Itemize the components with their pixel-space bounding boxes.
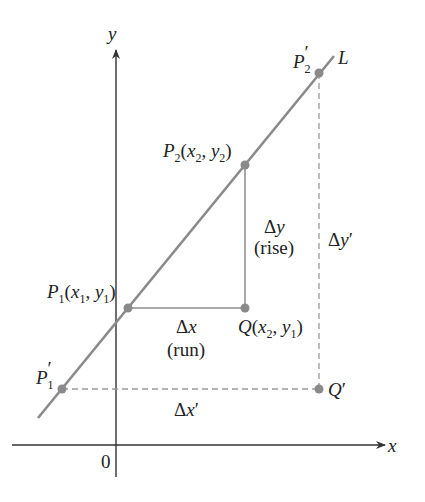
label-p2: P2(x2, y2) [162, 140, 232, 165]
delta-y-label: Δy [264, 216, 285, 237]
point-p2 [241, 161, 250, 170]
label-q: Q(x2, y1) [238, 316, 303, 341]
y-axis-label: y [106, 23, 117, 44]
point-p1 [124, 304, 133, 313]
run-caption: (run) [167, 339, 205, 361]
slope-diagram: x y 0 L P1(x1, y1) P2(x2, y2) Q(x2, y1) … [0, 0, 425, 502]
delta-x-label: Δx [176, 316, 197, 337]
line-l-label: L [337, 47, 349, 68]
label-p1: P1(x1, y1) [46, 281, 116, 306]
label-p2-prime: P2′ [292, 42, 311, 76]
label-p1-prime: P1′ [35, 358, 54, 392]
rise-caption: (rise) [254, 237, 294, 259]
delta-y-prime-label: Δy′ [328, 229, 353, 250]
diagram-canvas: x y 0 L P1(x1, y1) P2(x2, y2) Q(x2, y1) … [0, 0, 425, 502]
origin-label: 0 [101, 451, 111, 472]
delta-x-prime-label: Δx′ [174, 399, 199, 420]
point-p1-prime [58, 385, 67, 394]
point-q [241, 304, 250, 313]
point-q-prime [315, 385, 324, 394]
point-p2-prime [315, 69, 324, 78]
x-axis-label: x [387, 435, 397, 456]
label-q-prime: Q′ [328, 379, 346, 400]
